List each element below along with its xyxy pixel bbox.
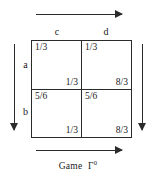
arrow-head	[10, 123, 18, 131]
matrix-cell-b-c: 5/6 1/3	[32, 89, 82, 138]
matrix-cell-a-c: 1/3 1/3	[32, 41, 82, 90]
payoff-column-player: 1/3	[66, 77, 78, 88]
payoff-column-player: 8/3	[116, 125, 128, 136]
payoff-row-player: 1/3	[35, 42, 47, 53]
matrix-cell-b-d: 5/6 8/3	[82, 89, 132, 138]
row-label-a: a	[20, 59, 31, 70]
arrow-head	[138, 123, 146, 131]
arrow-shaft	[14, 44, 16, 130]
payoff-row-player: 5/6	[35, 91, 47, 102]
table-row: 5/6 1/3 5/6 8/3	[32, 89, 132, 138]
payoff-row-player: 1/3	[85, 42, 97, 53]
arrow-head	[115, 10, 123, 18]
payoff-column-player: 1/3	[66, 125, 78, 136]
arrow-shaft	[142, 44, 144, 130]
game-matrix-figure: c d a b 1/3 1/3 1/3 8/3 5/6 1/3 5/6 8/3	[0, 0, 156, 179]
left-arrow-down-icon	[10, 44, 19, 130]
bottom-arrow-right-icon	[36, 146, 122, 155]
payoff-column-player: 8/3	[116, 77, 128, 88]
arrow-shaft	[36, 150, 122, 152]
caption-superscript: 0	[94, 159, 98, 166]
right-arrow-down-icon	[138, 44, 147, 130]
figure-caption: Game Γ0	[0, 160, 156, 172]
row-label-b: b	[20, 106, 31, 117]
arrow-shaft	[36, 14, 122, 16]
arrow-head	[115, 146, 123, 154]
caption-text: Game	[59, 161, 83, 171]
matrix-cell-a-d: 1/3 8/3	[82, 41, 132, 90]
column-label-d: d	[99, 26, 113, 37]
column-label-c: c	[50, 26, 64, 37]
payoff-matrix: 1/3 1/3 1/3 8/3 5/6 1/3 5/6 8/3	[31, 40, 132, 138]
table-row: 1/3 1/3 1/3 8/3	[32, 41, 132, 90]
payoff-row-player: 5/6	[85, 91, 97, 102]
top-arrow-right-icon	[36, 10, 122, 19]
